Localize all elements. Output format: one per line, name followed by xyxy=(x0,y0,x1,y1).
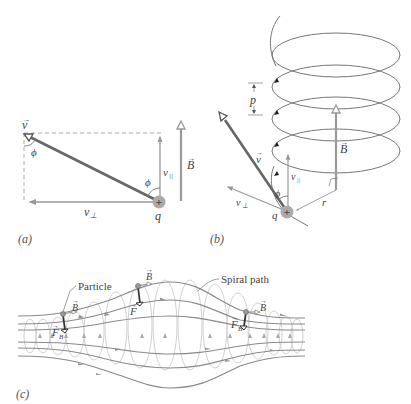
direction-arrow-icon xyxy=(274,171,279,176)
panel-a: + xyxy=(24,121,185,209)
velocity-arrowhead-icon xyxy=(24,134,33,141)
vector-arrow-icon: → xyxy=(340,138,348,147)
v-parallel-sub-b: || xyxy=(297,177,301,183)
panel-label-c: (c) xyxy=(16,387,29,401)
vector-arrow-icon: → xyxy=(187,154,195,163)
vector-arrow-icon: → xyxy=(72,297,79,305)
spiral-path-annotation: Spiral path xyxy=(221,273,269,285)
v-perp-sub-a: ⊥ xyxy=(90,211,97,220)
vector-arrow-icon: → xyxy=(260,297,267,305)
field-line-arrows xyxy=(78,298,286,376)
pitch-label: p xyxy=(249,93,256,107)
angle-label-b: ϕ xyxy=(275,188,280,199)
v-parallel-sub-a: || xyxy=(169,172,173,180)
field-line-5 xyxy=(18,348,305,368)
vector-arrow-icon: → xyxy=(146,266,153,274)
panel-label-b: (b) xyxy=(210,232,224,246)
helix-top-tail xyxy=(270,16,280,66)
angle-arc-b xyxy=(279,196,288,199)
charge-label-a: q xyxy=(155,209,161,223)
figure-canvas: + v → ϕ ϕ v || v ⊥ B → q (a) p B → xyxy=(0,0,411,404)
panel-label-a: (a) xyxy=(18,232,32,246)
force-arrow-1 xyxy=(63,315,65,330)
radius-line xyxy=(297,190,336,210)
particle-2 xyxy=(136,284,141,289)
field-line-6 xyxy=(18,356,305,388)
velocity-arrow xyxy=(30,137,158,201)
vector-arrow-icon: → xyxy=(52,322,59,330)
force-sub-1: B xyxy=(59,333,64,341)
pitch-arrow-down-icon xyxy=(252,110,256,114)
vector-arrow-icon: → xyxy=(256,149,263,157)
helix-loop-2 xyxy=(272,65,400,109)
charge-sign: + xyxy=(156,196,162,208)
angle-arc-bottom xyxy=(148,188,160,196)
b-field-arrowhead-icon xyxy=(177,121,185,129)
charge-label-b: q xyxy=(272,209,278,221)
particle-3 xyxy=(244,310,249,315)
vector-arrow-icon: → xyxy=(231,314,238,322)
particle-annotation: Particle xyxy=(78,280,112,292)
v-parallel-label-b: v xyxy=(291,171,296,182)
vector-arrow-icon: → xyxy=(130,301,137,309)
angle-label-top: ϕ xyxy=(31,146,37,158)
angle-label-bottom: ϕ xyxy=(145,176,151,188)
particle-1 xyxy=(61,312,66,317)
charge-sign-b: + xyxy=(284,206,290,218)
loop-direction-arrows xyxy=(38,333,292,338)
spiral-loops xyxy=(24,280,303,370)
v-perp-sub-b: ⊥ xyxy=(242,202,248,210)
pitch-arrow-up-icon xyxy=(252,84,256,88)
radius-label: r xyxy=(322,196,327,208)
helix-loop-1 xyxy=(272,33,400,77)
vector-arrow-icon: → xyxy=(22,115,30,124)
b-arrowhead-icon xyxy=(147,282,152,286)
force-arrowhead-icon xyxy=(136,302,143,306)
force-arrow-2 xyxy=(138,287,140,303)
v-perp-label-b: v xyxy=(236,197,241,208)
v-parallel-label-a: v xyxy=(163,166,168,178)
force-sub-3: B xyxy=(238,325,243,333)
